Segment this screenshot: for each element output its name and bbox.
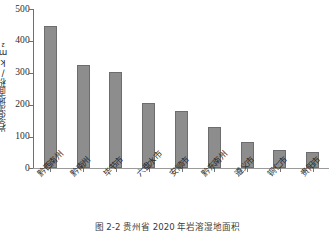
figure-caption: 图 2-2 贵州省 2020 年岩溶湿地面积 [0, 222, 335, 232]
x-axis-labels: 黔西南州黔南州毕节市六盘水市安顺市黔东南州遵义市铜仁市贵阳市 [0, 168, 335, 216]
bar-毕节市 [109, 72, 122, 168]
bar-黔南州 [77, 65, 90, 168]
y-axis-title: 岩溶湿地面积/km² [0, 38, 11, 132]
y-tick-label-500: 500 [15, 5, 30, 15]
y-tick-label-400: 400 [15, 36, 30, 46]
y-tick-label-100: 100 [15, 132, 30, 142]
figure-container: 岩溶湿地面积/km² 500 400 300 200 100 0 黔西南州黔南州… [0, 0, 335, 232]
bar-series [34, 9, 329, 168]
y-tick-label-300: 300 [15, 68, 30, 78]
bar-黔西南州 [44, 26, 57, 169]
y-tick-label-200: 200 [15, 100, 30, 110]
